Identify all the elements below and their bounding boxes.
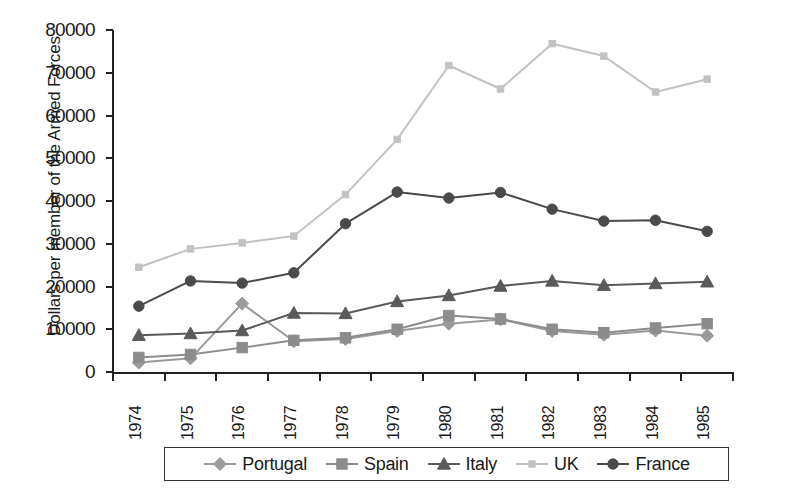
chart-legend: PortugalSpainItalyUKFrance <box>164 447 729 481</box>
data-point <box>289 335 299 345</box>
x-tick-label: 1977 <box>282 370 300 440</box>
data-point <box>599 216 609 226</box>
x-tick-mark <box>732 373 734 381</box>
data-point <box>239 240 245 246</box>
y-tick-label: 40000 <box>0 191 95 210</box>
x-tick-mark <box>112 373 114 381</box>
legend-entry-portugal[interactable]: Portugal <box>194 454 316 475</box>
x-tick-mark <box>680 373 682 381</box>
series-italy <box>132 274 713 340</box>
data-point <box>134 301 144 311</box>
series-line <box>139 304 707 363</box>
data-point <box>185 276 195 286</box>
data-point <box>442 289 455 301</box>
data-point <box>702 226 712 236</box>
series-portugal <box>132 297 713 369</box>
y-tick-label: 70000 <box>0 63 95 82</box>
data-point <box>342 191 348 197</box>
square-marker-icon <box>325 456 359 472</box>
data-point <box>650 215 660 225</box>
series-line <box>139 44 707 268</box>
data-point <box>132 356 145 369</box>
data-point <box>134 352 144 362</box>
series-line <box>139 316 707 358</box>
x-tick-label: 1983 <box>592 370 610 440</box>
data-point <box>650 323 660 333</box>
x-tick-mark <box>525 373 527 381</box>
plot-series-layer <box>0 0 807 489</box>
legend-label: Italy <box>466 454 498 475</box>
data-point <box>291 233 297 239</box>
data-point <box>442 317 455 330</box>
legend-entry-uk[interactable]: UK <box>506 454 587 475</box>
y-tick-label: 10000 <box>0 319 95 338</box>
data-point <box>184 327 197 339</box>
data-point <box>237 342 247 352</box>
data-point <box>446 62 452 68</box>
data-point <box>236 297 249 310</box>
y-tick-mark <box>106 29 113 31</box>
x-tick-mark <box>164 373 166 381</box>
data-point <box>597 279 610 291</box>
legend-entry-spain[interactable]: Spain <box>316 454 418 475</box>
data-point <box>444 310 454 320</box>
y-tick-mark <box>106 72 113 74</box>
data-point <box>184 352 197 365</box>
y-tick-label: 80000 <box>0 20 95 39</box>
x-tick-mark <box>422 373 424 381</box>
data-point <box>444 193 454 203</box>
legend-label: Portugal <box>242 454 307 475</box>
legend-label: Spain <box>364 454 409 475</box>
data-point <box>340 218 350 228</box>
data-point <box>547 204 557 214</box>
series-uk <box>136 40 711 270</box>
data-point <box>549 40 555 46</box>
triangle-marker-icon <box>427 456 461 472</box>
x-tick-label: 1975 <box>179 370 197 440</box>
y-tick-mark <box>106 157 113 159</box>
data-point <box>701 275 714 287</box>
x-tick-label: 1974 <box>127 370 145 440</box>
series-france <box>134 187 713 312</box>
y-tick-label: 0 <box>0 362 95 381</box>
square-marker-icon <box>515 456 549 472</box>
data-point <box>287 335 300 348</box>
data-point <box>339 307 352 319</box>
data-point <box>495 314 505 324</box>
data-point <box>132 329 145 341</box>
legend-label: UK <box>554 454 578 475</box>
x-tick-label: 1982 <box>540 370 558 440</box>
x-tick-mark <box>629 373 631 381</box>
legend-entry-italy[interactable]: Italy <box>418 454 507 475</box>
y-tick-mark <box>106 115 113 117</box>
x-tick-mark <box>370 373 372 381</box>
line-chart: Dollars per member of the Armed Forces 8… <box>0 0 807 489</box>
y-tick-mark <box>106 243 113 245</box>
y-tick-label: 20000 <box>0 277 95 296</box>
data-point <box>289 268 299 278</box>
legend-entry-france[interactable]: France <box>587 454 698 475</box>
data-point <box>392 187 402 197</box>
y-tick-label: 60000 <box>0 106 95 125</box>
data-point <box>340 333 350 343</box>
data-point <box>494 313 507 326</box>
data-point <box>136 264 142 270</box>
data-point <box>601 53 607 59</box>
data-point <box>704 76 710 82</box>
x-tick-label: 1976 <box>230 370 248 440</box>
legend-label: France <box>635 454 689 475</box>
diamond-marker-icon <box>203 456 237 472</box>
data-point <box>546 274 559 286</box>
y-tick-mark <box>106 328 113 330</box>
data-point <box>649 277 662 289</box>
data-point <box>185 349 195 359</box>
data-point <box>392 324 402 334</box>
data-point <box>649 324 662 337</box>
x-tick-label: 1984 <box>644 370 662 440</box>
data-point <box>652 89 658 95</box>
data-point <box>599 327 609 337</box>
data-point <box>187 246 193 252</box>
data-point <box>702 318 712 328</box>
x-tick-label: 1985 <box>695 370 713 440</box>
x-tick-label: 1980 <box>437 370 455 440</box>
